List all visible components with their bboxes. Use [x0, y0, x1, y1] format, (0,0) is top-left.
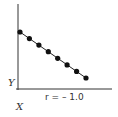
y-axis-label: Y: [8, 77, 16, 88]
data-point: [46, 49, 51, 54]
data-point: [65, 62, 70, 67]
x-axis-label: X: [15, 101, 24, 112]
data-point: [17, 29, 22, 34]
data-point: [83, 75, 88, 80]
data-point: [55, 56, 60, 61]
correlation-annotation: r = – 1.0: [45, 92, 84, 102]
data-point: [36, 43, 41, 48]
data-point: [74, 69, 79, 74]
scatter-chart: Y X r = – 1.0: [0, 0, 118, 117]
data-point: [27, 36, 32, 41]
